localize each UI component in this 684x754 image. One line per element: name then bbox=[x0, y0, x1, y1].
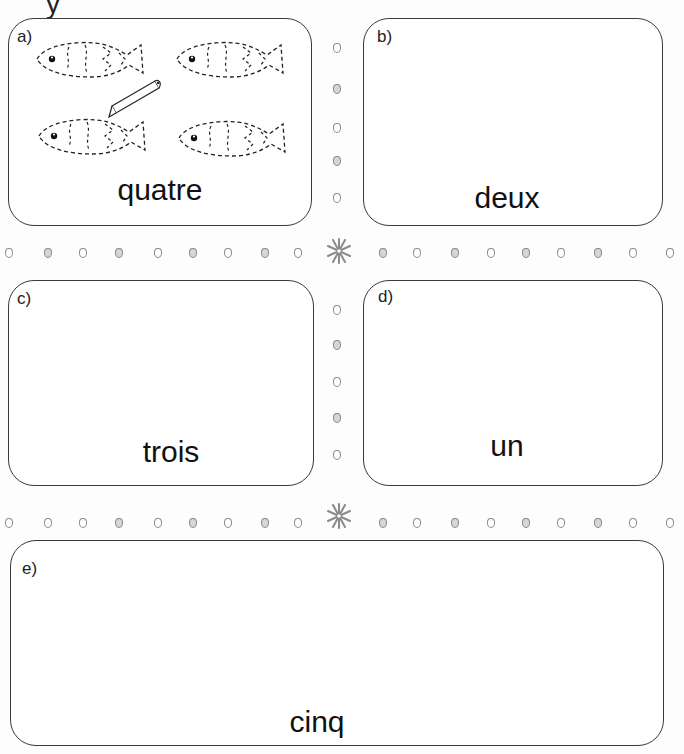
decorative-dot bbox=[333, 84, 341, 94]
decorative-dot bbox=[413, 248, 421, 258]
decorative-dot bbox=[333, 156, 341, 166]
number-word: trois bbox=[29, 435, 313, 469]
decorative-dot bbox=[333, 305, 341, 315]
decorative-dot bbox=[557, 248, 565, 258]
decorative-dot bbox=[44, 518, 52, 528]
decorative-dot bbox=[629, 518, 637, 528]
decorative-dot bbox=[487, 518, 495, 528]
fish-icon bbox=[179, 122, 285, 156]
decorative-dot bbox=[79, 518, 87, 528]
decorative-dot bbox=[154, 248, 162, 258]
number-word: cinq bbox=[0, 705, 663, 739]
panel-letter: c) bbox=[17, 289, 31, 309]
fish-icon bbox=[177, 43, 283, 77]
decorative-dot bbox=[666, 248, 674, 258]
panel-b: b) deux bbox=[363, 18, 663, 226]
decorative-dot bbox=[189, 518, 197, 528]
decorative-dot bbox=[557, 518, 565, 528]
decorative-dot bbox=[333, 340, 341, 350]
decorative-dot bbox=[379, 248, 387, 258]
decorative-dot bbox=[594, 248, 602, 258]
decorative-dot bbox=[629, 248, 637, 258]
decorative-dot bbox=[115, 248, 123, 258]
decorative-dot bbox=[666, 518, 674, 528]
decorative-dot bbox=[594, 518, 602, 528]
asterisk-star-icon bbox=[326, 503, 352, 529]
decorative-dot bbox=[79, 248, 87, 258]
decorative-dot bbox=[487, 248, 495, 258]
number-word: quatre bbox=[9, 173, 311, 207]
decorative-dot bbox=[5, 248, 13, 258]
decorative-dot bbox=[333, 43, 341, 53]
decorative-dot bbox=[333, 123, 341, 133]
fish-icon bbox=[37, 43, 143, 77]
fish-illustration bbox=[9, 19, 309, 169]
decorative-dot bbox=[333, 193, 341, 203]
decorative-dot bbox=[224, 518, 232, 528]
decorative-dot bbox=[294, 248, 302, 258]
decorative-dot bbox=[333, 377, 341, 387]
cutoff-heading-fragment: y bbox=[46, 0, 60, 20]
decorative-dot bbox=[44, 248, 52, 258]
asterisk-star-icon bbox=[326, 238, 352, 264]
pencil-icon bbox=[109, 80, 160, 117]
decorative-dot bbox=[413, 518, 421, 528]
decorative-dot bbox=[261, 248, 269, 258]
decorative-dot bbox=[224, 248, 232, 258]
decorative-dot bbox=[522, 248, 530, 258]
decorative-dot bbox=[115, 518, 123, 528]
decorative-dot bbox=[261, 518, 269, 528]
panel-letter: b) bbox=[377, 27, 392, 47]
decorative-dot bbox=[333, 413, 341, 423]
decorative-dot bbox=[5, 518, 13, 528]
panel-letter: d) bbox=[378, 287, 393, 307]
panel-a: a) quatre bbox=[8, 18, 312, 226]
panel-e: e) cinq bbox=[10, 540, 664, 746]
panel-c: c) trois bbox=[8, 280, 314, 486]
panel-d: d) un bbox=[363, 280, 663, 486]
decorative-dot bbox=[333, 450, 341, 460]
number-word: un bbox=[352, 429, 662, 463]
decorative-dot bbox=[451, 248, 459, 258]
fish-icon bbox=[39, 120, 145, 154]
panel-letter: e) bbox=[22, 559, 37, 579]
decorative-dot bbox=[451, 518, 459, 528]
decorative-dot bbox=[294, 518, 302, 528]
decorative-dot bbox=[189, 248, 197, 258]
decorative-dot bbox=[379, 518, 387, 528]
decorative-dot bbox=[154, 518, 162, 528]
decorative-dot bbox=[522, 518, 530, 528]
number-word: deux bbox=[352, 181, 662, 215]
